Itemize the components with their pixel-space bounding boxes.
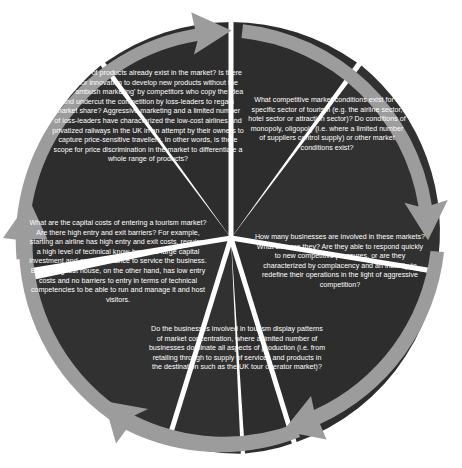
segment-text-products: What types of products already exist in …: [52, 69, 244, 165]
segment-text-conditions: What competitive market conditions exist…: [248, 96, 406, 154]
segment-text-concentration: Do the businesses involved in tourism di…: [148, 325, 326, 373]
diagram-canvas: What types of products already exist in …: [0, 0, 462, 468]
segment-text-capital: What are the capital costs of entering a…: [29, 219, 207, 305]
segment-text-businesses: How many businesses are involved in thes…: [254, 233, 426, 291]
